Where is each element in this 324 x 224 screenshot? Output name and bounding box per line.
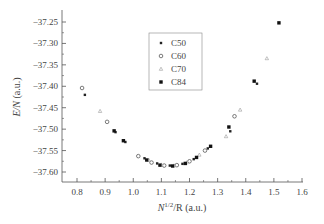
data-point-c60 [203, 149, 207, 153]
data-point-c60 [137, 154, 141, 158]
data-point-c84 [158, 163, 161, 166]
legend-label-c84: C84 [171, 77, 187, 87]
x-tick-label: 1.3 [212, 187, 224, 197]
data-point-c70 [238, 108, 241, 111]
legend: C50C60C70C84 [149, 33, 202, 90]
x-tick-label: 1.0 [128, 187, 140, 197]
data-point-c50 [156, 162, 158, 164]
data-point-c60 [105, 120, 109, 124]
x-tick-label: 1.6 [296, 187, 308, 197]
data-point-c50 [229, 130, 231, 132]
y-tick-label: −37.40 [33, 81, 59, 91]
data-point-c84 [112, 129, 115, 132]
data-point-c60 [80, 86, 84, 90]
data-point-c70 [265, 57, 268, 60]
y-tick-label: −37.60 [33, 167, 59, 177]
data-point-c84 [209, 145, 212, 148]
legend-marker-c84 [159, 80, 162, 83]
y-tick-label: −37.50 [33, 124, 59, 134]
y-axis-title: E/N (a.u.) [11, 77, 23, 117]
y-tick-label: −37.25 [33, 17, 59, 27]
x-axis-title: N1/2/R (a.u.) [157, 201, 207, 214]
y-tick-label: −37.45 [33, 103, 59, 113]
legend-marker-c50 [160, 42, 162, 44]
data-point-c84 [227, 125, 230, 128]
data-point-c60 [188, 159, 192, 163]
scatter-chart: −37.25−37.30−37.35−37.40−37.45−37.50−37.… [0, 0, 324, 224]
data-point-c84 [252, 79, 255, 82]
y-tick-label: −37.55 [33, 146, 59, 156]
x-ticks: 0.80.91.01.11.21.31.41.51.6 [71, 178, 308, 197]
data-point-c50 [181, 163, 183, 165]
y-tick-label: −37.35 [33, 60, 59, 70]
data-point-c84 [184, 162, 187, 165]
data-point-c70 [98, 109, 101, 112]
legend-marker-c60 [159, 54, 163, 58]
x-tick-label: 0.8 [71, 187, 83, 197]
y-tick-label: −37.30 [33, 38, 59, 48]
x-tick-label: 0.9 [100, 187, 112, 197]
data-point-c70 [198, 153, 201, 156]
data-point-c84 [171, 164, 174, 167]
data-point-c84 [145, 158, 148, 161]
x-tick-label: 1.2 [184, 187, 195, 197]
data-point-c84 [122, 139, 125, 142]
x-tick-label: 1.1 [156, 187, 167, 197]
data-point-c60 [233, 114, 237, 118]
data-point-c50 [84, 94, 86, 96]
x-tick-label: 1.4 [240, 187, 252, 197]
data-point-c50 [207, 147, 209, 149]
data-point-c50 [256, 83, 258, 85]
legend-label-c70: C70 [171, 64, 187, 74]
legend-label-c60: C60 [171, 51, 187, 61]
data-point-c50 [193, 158, 195, 160]
y-ticks: −37.25−37.30−37.35−37.40−37.45−37.50−37.… [33, 17, 66, 177]
data-point-c70 [224, 135, 227, 138]
data-point-c84 [195, 156, 198, 159]
data-point-c84 [277, 21, 280, 24]
data-point-c50 [169, 164, 171, 166]
legend-label-c50: C50 [171, 38, 187, 48]
x-tick-label: 1.5 [268, 187, 280, 197]
